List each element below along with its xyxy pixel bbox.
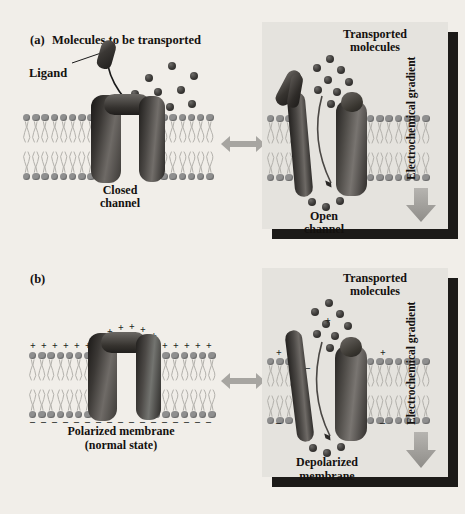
figure-canvas: (a) Molecules to be transported Ligand C… [0,0,465,514]
electrochemical-gradient-arrow-b [0,0,465,514]
